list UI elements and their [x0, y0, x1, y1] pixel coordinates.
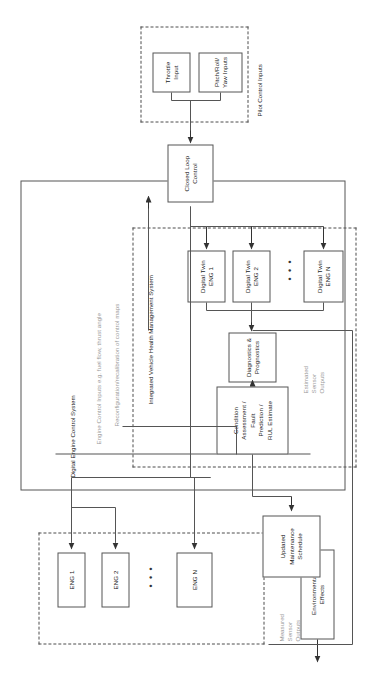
diagram-canvas: Environmental Effects ENG 1 ENG 2 • • • … — [0, 0, 365, 682]
rotated-diagram-layer: Environmental Effects ENG 1 ENG 2 • • • … — [0, 0, 365, 682]
connector-layer — [0, 0, 365, 682]
